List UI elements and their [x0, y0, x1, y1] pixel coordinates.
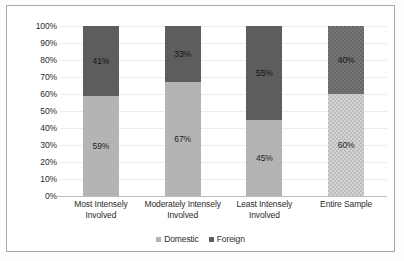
x-axis-category-label: Most IntenselyInvolved — [54, 199, 148, 221]
bar-segment-foreign: 33% — [165, 26, 201, 82]
x-axis-category-label: Moderately IntenselyInvolved — [136, 199, 230, 221]
bar-segment-foreign: 40% — [328, 26, 364, 94]
y-axis-tick-label: 60% — [15, 89, 57, 99]
bar-value-label: 33% — [174, 49, 191, 59]
x-axis-category-line: Involved — [218, 210, 312, 221]
y-axis-tick-label: 70% — [15, 72, 57, 82]
legend-swatch-icon — [156, 237, 161, 242]
x-axis-category-label: Entire Sample — [299, 199, 393, 210]
x-axis: Most IntenselyInvolvedModerately Intense… — [60, 199, 387, 225]
stacked-bar: 33%67% — [165, 26, 201, 196]
legend-label: Domestic — [164, 234, 199, 244]
x-axis-category-line: Moderately Intensely — [136, 199, 230, 210]
bar-value-label: 45% — [256, 153, 273, 163]
y-axis-tick-label: 0% — [15, 191, 57, 201]
chart-frame: 100%90%80%70%60%50%40%30%20%10%0% 41%59%… — [6, 5, 395, 252]
y-axis-tick-label: 10% — [15, 174, 57, 184]
y-axis-tick-label: 20% — [15, 157, 57, 167]
chart-figure: 100%90%80%70%60%50%40%30%20%10%0% 41%59%… — [0, 0, 404, 261]
bar-segment-domestic: 59% — [83, 96, 119, 196]
bar-value-label: 40% — [338, 55, 355, 65]
bar-value-label: 60% — [338, 140, 355, 150]
bar-value-label: 55% — [256, 68, 273, 78]
bar-segment-foreign: 55% — [246, 26, 282, 120]
bar-segment-domestic: 60% — [328, 94, 364, 196]
x-axis-category-label: Least IntenselyInvolved — [218, 199, 312, 221]
legend-item[interactable]: Domestic — [156, 234, 199, 244]
x-axis-category-line: Most Intensely — [54, 199, 148, 210]
y-axis-tick-label: 30% — [15, 140, 57, 150]
stacked-bar: 41%59% — [83, 26, 119, 196]
y-axis-tick-label: 50% — [15, 106, 57, 116]
x-axis-category-line: Entire Sample — [299, 199, 393, 210]
x-axis-line — [55, 196, 387, 197]
bar-segment-foreign: 41% — [83, 26, 119, 96]
plot-area: 41%59%33%67%55%45%40%60% — [60, 26, 387, 196]
bar-segment-domestic: 67% — [165, 82, 201, 196]
y-axis-tick-label: 90% — [15, 38, 57, 48]
x-axis-category-line: Involved — [54, 210, 148, 221]
bar-value-label: 67% — [174, 134, 191, 144]
bar-value-label: 59% — [93, 141, 110, 151]
chart-legend: DomesticForeign — [7, 234, 394, 244]
y-axis-tick-label: 80% — [15, 55, 57, 65]
y-axis-tick-label: 40% — [15, 123, 57, 133]
x-axis-category-line: Involved — [136, 210, 230, 221]
x-axis-category-line: Least Intensely — [218, 199, 312, 210]
legend-label: Foreign — [217, 234, 245, 244]
y-axis-tick-label: 100% — [15, 21, 57, 31]
bar-segment-domestic: 45% — [246, 120, 282, 197]
y-axis: 100%90%80%70%60%50%40%30%20%10%0% — [15, 20, 57, 202]
stacked-bar: 55%45% — [246, 26, 282, 196]
bar-value-label: 41% — [93, 56, 110, 66]
legend-item[interactable]: Foreign — [209, 234, 245, 244]
legend-swatch-icon — [209, 237, 214, 242]
stacked-bar: 40%60% — [328, 26, 364, 196]
